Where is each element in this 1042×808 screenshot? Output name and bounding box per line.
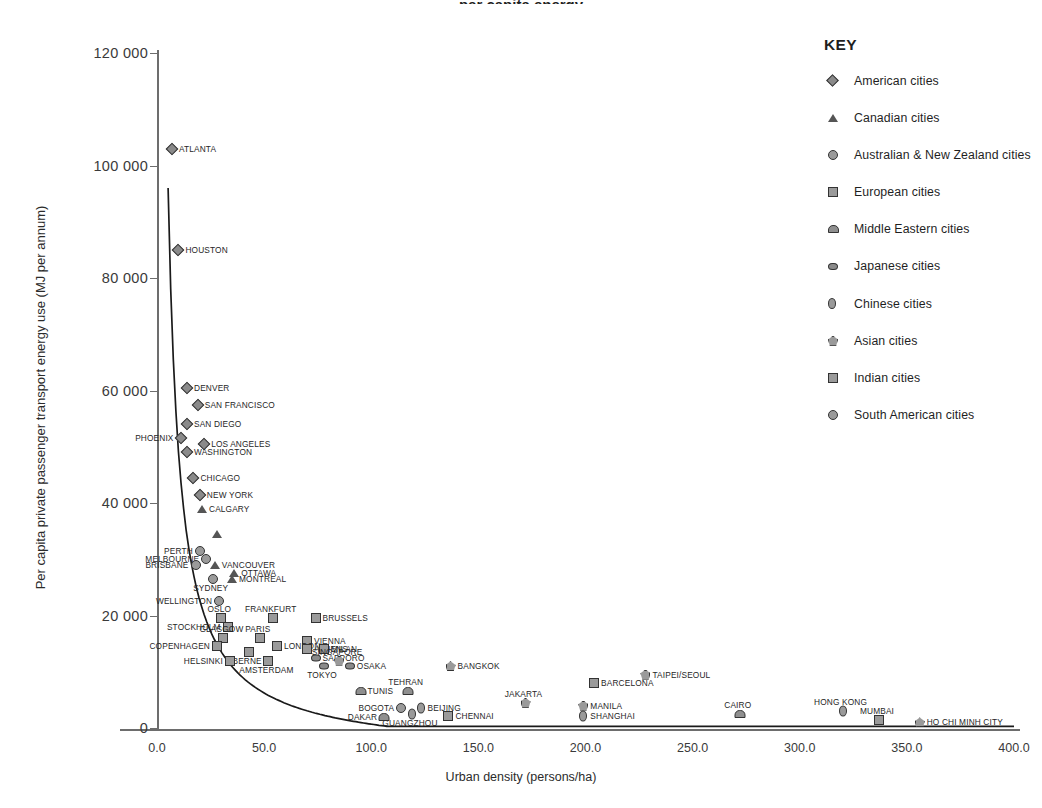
data-point-brussels[interactable] — [311, 613, 321, 623]
legend-item-label: Indian cities — [854, 371, 920, 385]
data-point-hong-kong[interactable] — [839, 706, 847, 717]
data-point-bangkok[interactable] — [446, 661, 456, 671]
data-point-san-diego[interactable] — [182, 420, 191, 429]
data-point-manila[interactable] — [578, 701, 588, 711]
diamond-marker-icon — [181, 446, 194, 459]
data-point-montreal[interactable] — [227, 575, 237, 583]
legend-item-australian-new-zealand-cities[interactable]: Australian & New Zealand cities — [824, 142, 1042, 167]
data-point-ho-chi-minh-city[interactable] — [915, 717, 925, 727]
data-point-london[interactable] — [272, 641, 282, 651]
square-marker-icon — [255, 633, 265, 643]
point-label: NEW YORK — [207, 490, 253, 500]
data-point-chennai[interactable] — [443, 711, 453, 721]
data-point-athens[interactable] — [302, 644, 312, 654]
data-point-calgary[interactable] — [197, 505, 207, 513]
point-label: FRANKFURT — [245, 604, 296, 614]
semi-marker-icon — [402, 687, 413, 695]
data-point-san-francisco[interactable] — [193, 400, 202, 409]
x-tick-label: 0.0 — [148, 741, 165, 755]
circle-marker-icon — [191, 560, 201, 570]
data-point-chicago[interactable] — [189, 473, 198, 482]
legend-title: KEY — [824, 36, 1042, 54]
triangle-marker-icon — [227, 575, 237, 583]
point-label: GUANGZHOU — [382, 718, 437, 728]
data-point-shanghai[interactable] — [579, 710, 587, 721]
point-label: PARIS — [245, 624, 270, 634]
data-point-frankfurt[interactable] — [268, 613, 278, 623]
y-tick-label: 20 000 — [0, 608, 148, 624]
legend-item-japanese-cities[interactable]: Japanese cities — [824, 254, 1042, 279]
x-axis-title: Urban density (persons/ha) — [0, 770, 1042, 784]
data-point-phoenix[interactable] — [176, 434, 185, 443]
x-tick-label: 100.0 — [356, 741, 387, 755]
data-point-dakar[interactable] — [379, 713, 390, 721]
jdiamond-marker-icon — [319, 663, 329, 670]
legend-item-american-cities[interactable]: American cities — [824, 68, 1042, 93]
data-point-jakarta[interactable] — [521, 698, 531, 708]
x-tick-label: 350.0 — [891, 741, 922, 755]
data-point-beijing[interactable] — [417, 703, 425, 714]
data-point-denver[interactable] — [182, 383, 191, 392]
x-tick-label: 300.0 — [784, 741, 815, 755]
y-tick-mark — [150, 616, 157, 617]
legend-item-canadian-cities[interactable]: Canadian cities — [824, 105, 1042, 130]
data-point-bogota[interactable] — [396, 703, 406, 713]
oval-marker-icon — [828, 298, 854, 309]
legend: KEY American citiesCanadian citiesAustra… — [824, 36, 1042, 440]
square-marker-icon — [272, 641, 282, 651]
data-point-new-york[interactable] — [195, 490, 204, 499]
legend-item-label: South American cities — [854, 408, 974, 422]
data-point-washington[interactable] — [182, 448, 191, 457]
square-marker-icon — [443, 711, 453, 721]
legend-item-label: Australian & New Zealand cities — [854, 148, 1031, 162]
legend-item-asian-cities[interactable]: Asian cities — [824, 328, 1042, 353]
y-tick-label: 40 000 — [0, 495, 148, 511]
legend-item-indian-cities[interactable]: Indian cities — [824, 366, 1042, 391]
data-point-brisbane[interactable] — [191, 560, 201, 570]
triangle-marker-icon — [828, 114, 854, 122]
square-marker-icon — [268, 613, 278, 623]
point-label: TOKYO — [307, 670, 337, 680]
jdiamond-marker-icon — [828, 263, 854, 270]
legend-item-label: American cities — [854, 74, 939, 88]
data-point-houston[interactable] — [174, 245, 183, 254]
legend-item-south-american-cities[interactable]: South American cities — [824, 403, 1042, 428]
diamond-marker-icon — [828, 76, 854, 85]
point-label: ATLANTA — [179, 144, 216, 154]
legend-item-european-cities[interactable]: European cities — [824, 180, 1042, 205]
data-point-toronto[interactable] — [212, 530, 222, 538]
point-label: WASHINGTON — [194, 447, 252, 457]
y-axis-title: Per capita private passenger transport e… — [33, 78, 48, 718]
data-point-helsinki[interactable] — [225, 656, 235, 666]
y-axis-line — [157, 50, 159, 730]
x-tick-label: 150.0 — [463, 741, 494, 755]
square-marker-icon — [302, 644, 312, 654]
diamond-marker-icon — [187, 471, 200, 484]
legend-item-chinese-cities[interactable]: Chinese cities — [824, 291, 1042, 316]
data-point-osaka[interactable] — [345, 663, 355, 670]
y-tick-label: 60 000 — [0, 383, 148, 399]
legend-item-middle-eastern-cities[interactable]: Middle Eastern cities — [824, 217, 1042, 242]
data-point-singapore[interactable] — [334, 656, 344, 666]
y-tick-mark — [150, 166, 157, 167]
data-point-atlanta[interactable] — [167, 144, 176, 153]
square-marker-icon — [828, 187, 854, 197]
square-marker-icon — [311, 613, 321, 623]
data-point-paris[interactable] — [255, 633, 265, 643]
data-point-cairo[interactable] — [734, 710, 745, 718]
data-point-vancouver[interactable] — [210, 561, 220, 569]
triangle-marker-icon — [210, 561, 220, 569]
y-tick-label: 80 000 — [0, 270, 148, 286]
y-tick-mark — [150, 278, 157, 279]
data-point-barcelona[interactable] — [589, 678, 599, 688]
square-marker-icon — [212, 641, 222, 651]
y-tick-mark — [150, 728, 157, 729]
data-point-tehran[interactable] — [402, 687, 413, 695]
y-tick-mark — [150, 53, 157, 54]
data-point-tokyo[interactable] — [319, 663, 329, 670]
data-point-tunis[interactable] — [355, 687, 366, 695]
data-point-mumbai[interactable] — [874, 715, 884, 725]
chart-root: per capita energy 120 000100 00080 00060… — [0, 0, 1042, 808]
data-point-copenhagen[interactable] — [212, 641, 222, 651]
point-label: HOUSTON — [185, 245, 227, 255]
